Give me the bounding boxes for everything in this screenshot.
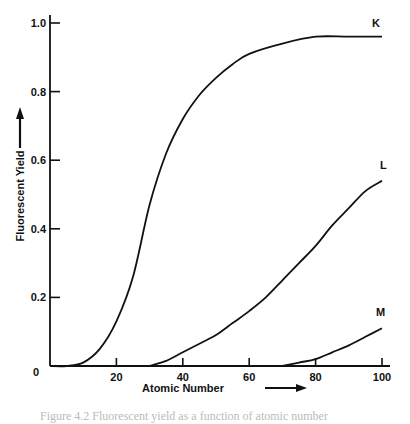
y-tick-label: 0.4 [31,223,47,235]
curve-label-m: M [376,306,385,318]
curve-m [282,328,382,366]
x-tick-label: 60 [243,371,255,383]
y-tick-label: 0 [33,366,39,378]
figure-caption: Figure 4.2 Fluorescent yield as a functi… [40,409,328,424]
x-tick-label: 100 [373,371,391,383]
x-axis-arrowhead-icon [296,384,307,392]
curves [50,36,382,366]
curve-label-l: L [380,159,387,171]
y-tick-label: 0.2 [31,291,46,303]
y-tick-label: 0.8 [31,86,46,98]
y-axis-title: Fluorescent Yield [14,150,26,241]
x-tick-label: 20 [110,371,122,383]
y-axis-arrowhead-icon [16,107,24,119]
labels: 00.20.40.60.81.020406080100Atomic Number… [14,17,391,394]
curve-k [50,36,382,366]
x-axis-title: Atomic Number [142,382,225,394]
x-tick-label: 80 [309,371,321,383]
axes [50,15,390,366]
curve-l [150,181,382,366]
y-tick-label: 0.6 [31,154,46,166]
y-tick-label: 1.0 [31,17,46,29]
curve-label-k: K [372,17,380,29]
